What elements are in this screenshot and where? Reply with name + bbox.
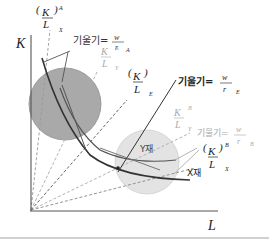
svg-text:w: w — [236, 125, 242, 134]
svg-text:(: ( — [36, 3, 41, 16]
label-kl-y-b: K L B Y — [173, 105, 192, 132]
svg-text:A: A — [114, 45, 119, 51]
svg-text:): ) — [218, 141, 223, 154]
svg-text:w: w — [222, 73, 228, 82]
svg-text:K: K — [207, 145, 216, 157]
label-kl-x-a: ( K L ) A X — [36, 3, 63, 33]
svg-text:E: E — [235, 89, 240, 95]
label-kl-e: ( K L ) E — [128, 66, 153, 97]
svg-text:X: X — [224, 166, 229, 172]
svg-text:A: A — [58, 5, 63, 11]
x-axis-label: L — [207, 218, 216, 233]
svg-text:L: L — [208, 158, 215, 170]
svg-text:기울기=: 기울기= — [178, 75, 213, 87]
svg-text:B: B — [188, 105, 192, 111]
svg-text:): ) — [143, 66, 148, 79]
svg-text:K: K — [100, 46, 109, 57]
label-kl-y-a: K L A Y — [100, 45, 119, 71]
svg-text:L: L — [101, 58, 108, 69]
svg-text:K: K — [173, 107, 182, 118]
x-good-label: X재 — [187, 168, 201, 178]
svg-text:Y: Y — [115, 65, 119, 71]
svg-text:r: r — [237, 137, 241, 146]
svg-text:A: A — [125, 47, 130, 53]
svg-text:L: L — [174, 119, 181, 130]
svg-text:기울기=: 기울기= — [73, 35, 108, 46]
bottom-divider — [0, 237, 269, 239]
svg-text:K: K — [41, 6, 50, 18]
svg-text:L: L — [42, 18, 49, 30]
svg-text:): ) — [53, 3, 58, 16]
y-good-label: Y재 — [139, 144, 154, 154]
svg-text:w: w — [114, 33, 120, 42]
factor-intensity-diagram: K L ( K L ) A X 기울기= w r A K L A Y ( K — [0, 0, 269, 245]
svg-text:B: B — [250, 141, 254, 147]
label-kl-x-b: ( K L ) B X — [203, 141, 229, 172]
label-slope-e: 기울기= w r E — [178, 73, 240, 95]
y-axis-label: K — [15, 36, 26, 51]
svg-text:E: E — [148, 91, 153, 97]
svg-text:K: K — [132, 70, 141, 82]
svg-text:B: B — [225, 142, 229, 148]
svg-text:기울기=: 기울기= — [197, 128, 229, 138]
svg-text:X: X — [58, 27, 63, 33]
point-e — [116, 166, 120, 170]
svg-text:Y: Y — [188, 126, 192, 132]
svg-text:r: r — [223, 85, 227, 94]
svg-text:L: L — [133, 83, 140, 95]
